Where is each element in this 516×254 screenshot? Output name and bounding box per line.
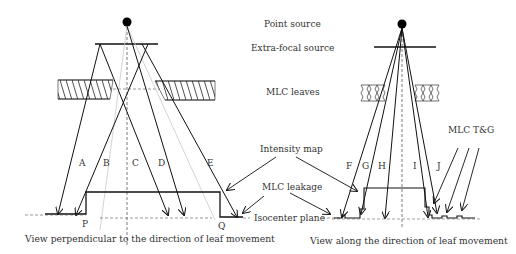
ray-label-i: I — [413, 161, 417, 171]
ray-e — [142, 44, 237, 217]
ray-label-f: F — [346, 161, 352, 171]
label-point-source: Point source — [264, 19, 321, 29]
ray-label-j: J — [436, 161, 441, 171]
left-view: A B C D E P Q View perpendicular to the … — [24, 18, 275, 246]
point-source-dot-right — [398, 20, 407, 29]
label-intensity-map: Intensity map — [260, 144, 323, 154]
mlc-leaves-left — [58, 80, 215, 100]
caption-right: View along the direction of leaf movemen… — [309, 235, 508, 246]
label-mlc-leaves: MLC leaves — [266, 87, 320, 97]
intensity-profile-left — [45, 192, 243, 217]
ray-j — [402, 28, 437, 213]
point-source-dot-left — [123, 18, 132, 27]
caption-left: View perpendicular to the direction of l… — [24, 233, 275, 244]
mlc-leaves-right — [361, 85, 439, 101]
ray-i — [402, 28, 428, 217]
label-extra-focal-source: Extra-focal source — [251, 43, 334, 53]
ray-label-b: B — [103, 158, 110, 168]
ray-f — [342, 28, 402, 217]
ray-a — [58, 44, 100, 214]
ray-label-c: C — [132, 158, 139, 168]
label-mlc-tg: MLC T&G — [448, 125, 494, 135]
ray-label-a: A — [78, 158, 86, 168]
ray-label-h: H — [378, 161, 386, 171]
ray-d — [127, 26, 184, 215]
point-p: P — [82, 219, 88, 229]
label-mlc-leakage: MLC leakage — [262, 182, 322, 192]
ray-label-d: D — [158, 158, 165, 168]
ray-b — [76, 44, 148, 215]
ray-label-g: G — [362, 161, 369, 171]
ray-g — [361, 28, 402, 214]
ray-h — [385, 28, 402, 218]
point-q: Q — [218, 221, 225, 231]
label-isocenter-plane: Isocenter plane — [254, 213, 325, 223]
diagram-canvas: A B C D E P Q View perpendicular to the … — [0, 0, 516, 254]
ray-label-e: E — [207, 158, 214, 168]
